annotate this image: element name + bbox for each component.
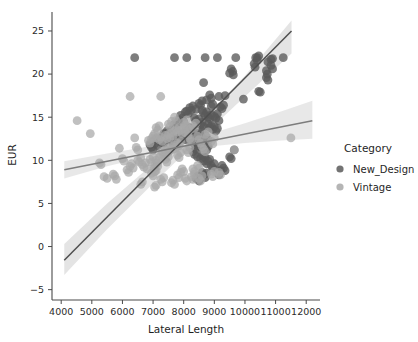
y-axis-title: EUR: [6, 144, 18, 166]
data-point-new_design: [225, 69, 234, 78]
y-tick-label: 15: [32, 112, 44, 123]
data-point-vintage: [86, 129, 95, 138]
data-point-vintage: [115, 144, 124, 153]
data-point-new_design: [213, 53, 222, 62]
y-tick-label: 25: [32, 25, 44, 36]
data-point-vintage: [124, 168, 133, 177]
x-tick-label: 5000: [80, 306, 104, 317]
x-tick-label: 7000: [141, 306, 165, 317]
y-tick-label: −5: [30, 284, 44, 295]
data-point-vintage: [192, 119, 201, 128]
y-tick-label: 0: [38, 241, 44, 252]
data-point-vintage: [216, 171, 225, 180]
data-point-new_design: [227, 154, 236, 163]
data-point-vintage: [126, 92, 135, 101]
data-point-vintage: [130, 133, 139, 142]
data-point-new_design: [231, 53, 240, 62]
data-point-vintage: [172, 116, 181, 125]
data-point-new_design: [215, 92, 224, 101]
data-point-vintage: [201, 147, 210, 156]
x-axis-title: Lateral Length: [148, 323, 224, 335]
data-point-vintage: [176, 137, 185, 146]
legend: Category New_Design Vintage: [336, 142, 414, 193]
data-point-vintage: [133, 146, 142, 155]
data-point-new_design: [130, 53, 139, 62]
legend-title: Category: [344, 142, 392, 154]
regression-line-new_design: [64, 31, 291, 260]
data-point-vintage: [176, 148, 185, 157]
x-tick-label: 12000: [291, 306, 321, 317]
legend-marker-new-design: [336, 165, 343, 172]
y-tick-label: 20: [32, 68, 44, 79]
legend-entry-vintage[interactable]: Vintage: [336, 182, 391, 193]
data-point-new_design: [213, 124, 222, 133]
data-point-new_design: [170, 53, 179, 62]
data-point-new_design: [182, 53, 191, 62]
y-tick-label: 10: [32, 155, 44, 166]
data-point-vintage: [230, 146, 239, 155]
chart-figure: 400050006000700080009000100001100012000 …: [0, 0, 418, 342]
data-point-vintage: [147, 134, 156, 143]
data-point-vintage: [156, 92, 165, 101]
data-point-vintage: [73, 116, 82, 125]
data-point-vintage: [198, 171, 207, 180]
data-point-vintage: [155, 121, 164, 130]
data-point-vintage: [287, 133, 296, 142]
legend-entry-new-design[interactable]: New_Design: [336, 164, 414, 176]
y-tick-label: 5: [38, 198, 44, 209]
x-tick-label: 8000: [172, 306, 196, 317]
legend-marker-vintage: [336, 183, 343, 190]
data-point-new_design: [264, 76, 273, 85]
data-point-new_design: [279, 53, 288, 62]
data-point-vintage: [182, 177, 191, 186]
data-point-vintage: [159, 173, 168, 182]
y-axis-ticks: −50510152025: [30, 25, 52, 295]
legend-label-new-design: New_Design: [353, 164, 414, 176]
x-tick-label: 4000: [49, 306, 73, 317]
data-point-new_design: [201, 53, 210, 62]
data-point-new_design: [256, 88, 265, 97]
data-point-vintage: [164, 152, 173, 161]
x-tick-label: 9000: [202, 306, 226, 317]
data-point-vintage: [190, 167, 199, 176]
x-tick-label: 6000: [110, 306, 134, 317]
data-point-new_design: [239, 95, 248, 104]
data-point-vintage: [112, 175, 121, 184]
x-axis-ticks: 400050006000700080009000100001100012000: [49, 300, 321, 317]
data-point-vintage: [152, 181, 161, 190]
scatter-plot-svg: 400050006000700080009000100001100012000 …: [0, 0, 418, 342]
data-point-new_design: [199, 78, 208, 87]
legend-label-vintage: Vintage: [353, 182, 391, 193]
data-point-new_design: [268, 65, 277, 74]
x-tick-label: 10000: [230, 306, 260, 317]
x-tick-label: 11000: [260, 306, 290, 317]
